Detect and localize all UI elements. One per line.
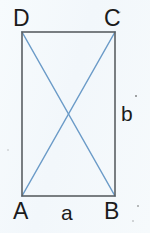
vertex-label-c: C: [104, 7, 121, 30]
side-label-a: a: [61, 202, 73, 223]
vertex-label-d: D: [13, 7, 30, 30]
vertex-label-a: A: [13, 200, 28, 223]
side-label-b: b: [121, 103, 133, 124]
geometry-figure: D C B A a b: [0, 0, 150, 233]
vertex-label-b: B: [104, 200, 119, 223]
